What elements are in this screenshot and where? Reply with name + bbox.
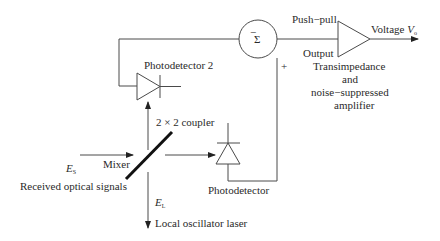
received-signal-label: Received optical signals [20, 180, 127, 192]
photodetector-2-label: Photodetector 2 [144, 59, 213, 71]
amp-line-2: and [342, 73, 358, 85]
voltage-label: Voltage Vo [371, 23, 417, 36]
signal-symbol: ES [65, 162, 76, 175]
amplifier-icon [338, 21, 370, 57]
amp-line-1: Transimpedance [313, 60, 385, 72]
photodetector-icon [216, 123, 240, 164]
plus-sign: + [281, 60, 287, 72]
pd-to-summer-wire [228, 58, 277, 181]
photodetector-2-icon [137, 73, 181, 100]
push-pull-label: Push−pull [292, 13, 337, 25]
amp-line-4: amplifier [334, 99, 375, 111]
amp-line-3: noise−suppressed [311, 86, 389, 98]
diagram-canvas: Photodetector 2 2 × 2 coupler Mixer ES R… [0, 0, 440, 241]
photodetector-label: Photodetector [208, 184, 269, 196]
coupler-label: 2 × 2 coupler [156, 116, 215, 128]
summer-node: Σ [239, 20, 277, 58]
local-oscillator-label: Local oscillator laser [155, 217, 248, 229]
minus-sign: − [250, 26, 256, 38]
mixer-label: Mixer [103, 158, 130, 170]
lo-symbol: EL [154, 196, 166, 209]
output-label: Output [303, 47, 334, 59]
